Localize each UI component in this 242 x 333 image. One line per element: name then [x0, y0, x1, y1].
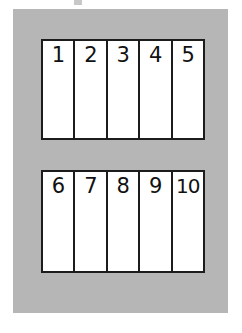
number-cell-label: 2: [84, 45, 97, 66]
bottom-number-strip: 6 7 8 9 10: [41, 170, 205, 273]
worksheet-panel: 1 2 3 4 5 6 7 8 9 10: [13, 9, 228, 313]
top-edge-artifact: [74, 0, 82, 5]
number-cell[interactable]: 6: [43, 172, 75, 271]
number-cell-label: 1: [52, 45, 65, 66]
number-cell-label: 5: [181, 45, 194, 66]
number-cell[interactable]: 8: [108, 172, 140, 271]
number-cell[interactable]: 1: [43, 41, 75, 138]
number-cell-label: 4: [149, 45, 162, 66]
number-cell[interactable]: 5: [173, 41, 203, 138]
number-cell[interactable]: 10: [173, 172, 203, 271]
number-cell[interactable]: 7: [75, 172, 107, 271]
number-cell-label: 3: [117, 45, 130, 66]
number-cell-label: 9: [149, 176, 162, 197]
number-cell-label: 8: [117, 176, 130, 197]
top-number-strip: 1 2 3 4 5: [41, 39, 205, 140]
number-cell-label: 7: [84, 176, 97, 197]
number-cell-label: 10: [176, 176, 199, 196]
number-cell[interactable]: 4: [140, 41, 172, 138]
number-cell[interactable]: 3: [108, 41, 140, 138]
number-cell[interactable]: 2: [75, 41, 107, 138]
number-cell[interactable]: 9: [140, 172, 172, 271]
number-cell-label: 6: [52, 176, 65, 197]
